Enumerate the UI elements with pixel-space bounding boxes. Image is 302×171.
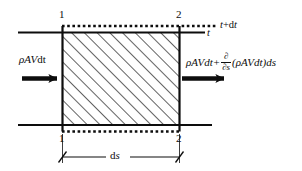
partial-derivative-denominator: ∂s [221, 63, 231, 72]
time-label-t-plus-dt-t2: t [234, 19, 237, 30]
control-volume-figure: 1 2 1 2 t+dt t ρAVdt ρAVdt+ ∂ ∂s (ρAVdt)… [0, 0, 302, 171]
outlet-flux-first-term: ρAVdt+ [186, 56, 220, 68]
outlet-flux-second-term: (ρAVdt)ds [232, 56, 276, 68]
time-label-t: t [207, 28, 210, 39]
outlet-flux-label: ρAVdt+ ∂ ∂s (ρAVdt)ds [186, 52, 276, 72]
dimension-label-s: s [116, 149, 120, 161]
corner-label-bottom-right: 2 [176, 133, 182, 144]
inlet-flux-label: ρAVdt [19, 54, 46, 65]
corner-label-top-right: 2 [176, 9, 182, 20]
figure-canvas [0, 0, 302, 171]
control-volume-hatch [63, 33, 180, 126]
corner-label-top-left: 1 [59, 9, 65, 20]
partial-derivative-fraction: ∂ ∂s [221, 52, 231, 72]
partial-derivative-numerator: ∂ [221, 52, 231, 61]
inlet-flux-dt: dt [37, 53, 46, 65]
time-label-t-plus-dt: t+dt [220, 20, 237, 31]
dimension-label-ds: ds [110, 150, 120, 161]
time-label-t-plus-dt-plus-d: +d [223, 19, 234, 30]
corner-label-bottom-left: 1 [59, 133, 65, 144]
inlet-flux-av: AV [24, 53, 37, 65]
